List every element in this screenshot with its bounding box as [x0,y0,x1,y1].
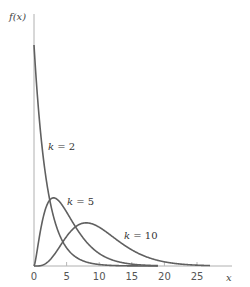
x-axis-label: x [226,272,232,283]
annotation-k10: k = 10 [124,230,158,241]
x-tick-label: 0 [31,271,37,282]
x-tick-label: 5 [63,271,69,282]
annotation-k2: k = 2 [48,141,75,152]
y-axis-label: f(x) [8,11,26,22]
x-tick-label: 25 [191,271,204,282]
annotation-k5: k = 5 [67,196,94,207]
chart: f(x) x 0510152025 k = 2k = 5k = 10 [0,0,250,287]
x-tick-label: 20 [158,271,171,282]
x-tick-label: 15 [125,271,138,282]
series-line-k10 [34,223,210,266]
x-tick-label: 10 [93,271,106,282]
